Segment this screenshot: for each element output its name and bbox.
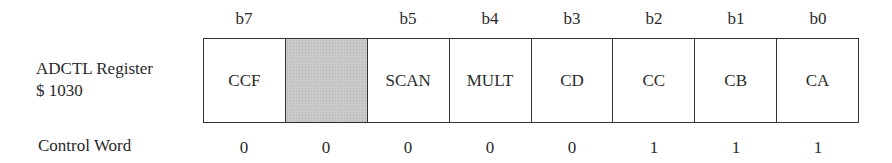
- control-word-label: Control Word: [38, 135, 131, 157]
- value-b0: 1: [777, 137, 859, 159]
- value-b6: 0: [285, 137, 367, 159]
- bit-cell-cc: CC: [612, 39, 694, 122]
- value-b2: 1: [613, 137, 695, 159]
- bit-label-b3: b3: [531, 8, 613, 30]
- register-name: ADCTL Register: [36, 58, 153, 80]
- value-b4: 0: [449, 137, 531, 159]
- value-b7: 0: [203, 137, 285, 159]
- bit-cell-reserved: [285, 39, 367, 122]
- bit-label-b1: b1: [695, 8, 777, 30]
- bit-label-b5: b5: [367, 8, 449, 30]
- bit-label-b7: b7: [203, 8, 285, 30]
- value-b3: 0: [531, 137, 613, 159]
- register-bit-field: CCF SCAN MULT CD CC CB CA: [203, 38, 859, 123]
- bit-cell-cd: CD: [531, 39, 613, 122]
- bit-cell-ccf: CCF: [204, 39, 285, 122]
- bit-label-b2: b2: [613, 8, 695, 30]
- value-b1: 1: [695, 137, 777, 159]
- bit-cell-cb: CB: [694, 39, 776, 122]
- register-label: ADCTL Register $ 1030: [36, 58, 153, 102]
- bit-cell-scan: SCAN: [367, 39, 449, 122]
- register-address: $ 1030: [36, 80, 153, 102]
- bit-label-b0: b0: [777, 8, 859, 30]
- bit-cell-mult: MULT: [449, 39, 531, 122]
- bit-label-b4: b4: [449, 8, 531, 30]
- value-b5: 0: [367, 137, 449, 159]
- bit-cell-ca: CA: [776, 39, 858, 122]
